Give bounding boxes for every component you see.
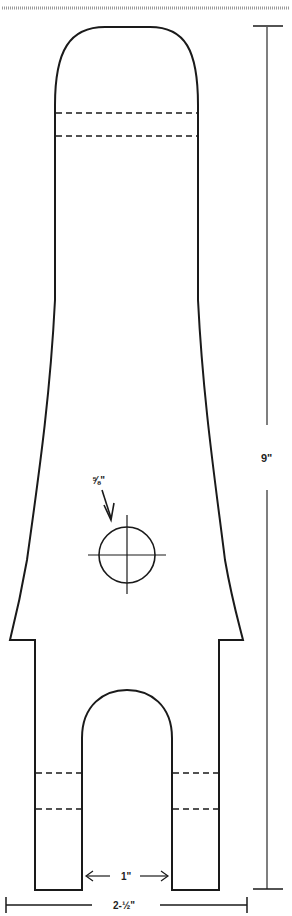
technical-drawing: ⅝" 9" 1" 2-½" [0,0,292,916]
hole-diameter-callout: ⅝" [92,475,114,520]
hole-diameter-label: ⅝" [92,475,105,486]
width-dimension: 2-½" [6,897,247,913]
slot-width-label: 1" [121,871,132,882]
top-fold-lines [56,113,197,136]
center-hole [88,515,166,594]
leg-fold-lines [36,773,218,809]
slot-width-dimension: 1" [86,871,168,882]
width-dimension-label: 2-½" [113,900,135,911]
part-outline [10,27,243,890]
height-dimension-label: 9" [261,452,272,464]
height-dimension: 9" [253,26,283,889]
